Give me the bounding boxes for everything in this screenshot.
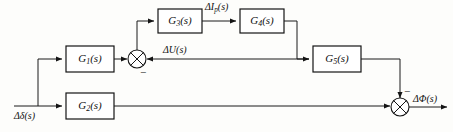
- block-label-g3: G3(s): [158, 15, 202, 28]
- signal-label-output-delta-phi: ΔΦ(s): [413, 94, 437, 104]
- block-label-g2: G2(s): [66, 100, 114, 113]
- block-label-g5: G5(s): [313, 53, 361, 66]
- block-label-g1: G1(s): [66, 53, 114, 66]
- signal-label-input-delta: Δδ(s): [14, 111, 35, 121]
- sign-label-sum2-minus: −: [404, 86, 410, 97]
- block-diagram-canvas: G1(s) G2(s) G3(s) G4(s) G5(s) Δδ(s) ΔU(s…: [0, 0, 453, 132]
- signal-label-delta-ip: ΔIp(s): [205, 2, 228, 14]
- block-label-g4: G4(s): [240, 15, 284, 28]
- sign-label-sum1-minus: −: [140, 67, 146, 78]
- signal-label-delta-u: ΔU(s): [163, 45, 187, 55]
